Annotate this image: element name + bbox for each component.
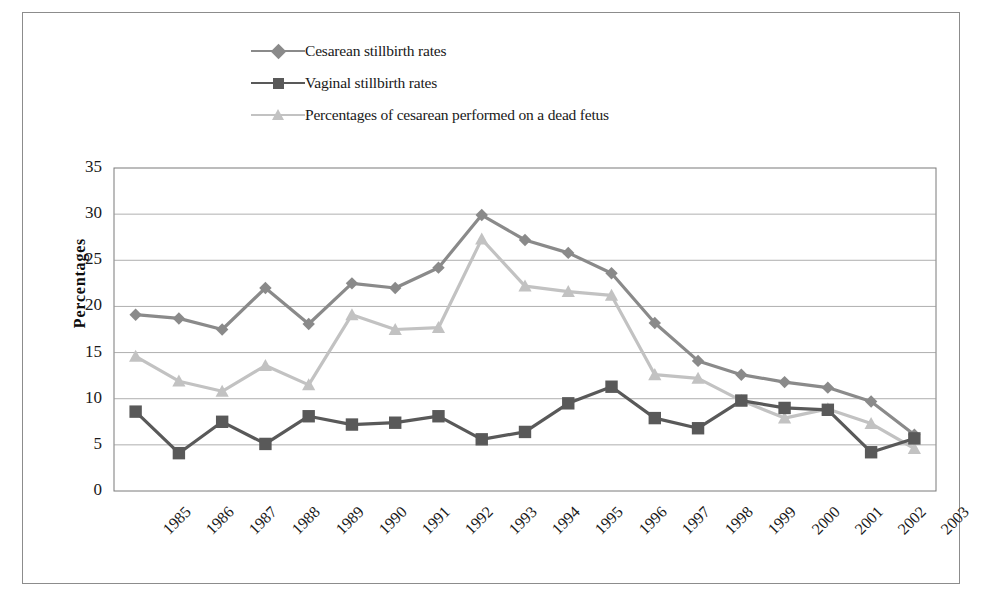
data-point-square (692, 422, 704, 434)
data-point-square (346, 418, 358, 430)
data-point-square (259, 438, 271, 450)
data-point-square (302, 410, 314, 422)
y-axis-tick-label: 10 (58, 388, 102, 408)
y-axis-tick-label: 25 (58, 249, 102, 269)
data-point-square (822, 404, 834, 416)
plot-frame (114, 168, 936, 491)
chart-figure: Cesarean stillbirth ratesVaginal stillbi… (22, 12, 960, 584)
data-point-square (605, 381, 617, 393)
data-point-square (216, 416, 228, 428)
data-point-square (129, 405, 141, 417)
y-axis-tick-label: 5 (58, 434, 102, 454)
data-point-square (519, 426, 531, 438)
data-point-square (649, 412, 661, 424)
data-point-square (389, 417, 401, 429)
data-point-square (908, 432, 920, 444)
y-axis-tick-label: 0 (58, 480, 102, 500)
plot-area: Percentages 0510152025303519851986198719… (23, 13, 961, 585)
data-point-square (432, 410, 444, 422)
y-axis-tick-label: 30 (58, 203, 102, 223)
data-point-square (562, 397, 574, 409)
y-axis-tick-label: 15 (58, 342, 102, 362)
data-point-square (476, 433, 488, 445)
data-point-square (173, 447, 185, 459)
data-point-square (778, 402, 790, 414)
data-point-square (865, 446, 877, 458)
data-point-square (735, 394, 747, 406)
y-axis-tick-label: 20 (58, 295, 102, 315)
y-axis-tick-label: 35 (58, 157, 102, 177)
plot-svg (23, 13, 961, 585)
